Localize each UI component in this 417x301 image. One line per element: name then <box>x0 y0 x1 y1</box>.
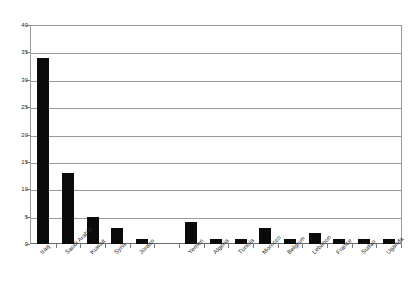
y-tick-label: 25 <box>2 104 28 110</box>
y-tick-label: 5 <box>2 214 28 220</box>
y-tick-label: 40 <box>2 22 28 28</box>
x-tick-mark <box>352 244 353 248</box>
x-tick-mark <box>154 244 155 248</box>
x-tick-mark <box>278 244 279 248</box>
x-tick-mark <box>130 244 131 248</box>
y-tick-mark <box>26 244 30 245</box>
bar-chart: 0510152025303540 IraqSaudi ArabiaKuwaitS… <box>0 0 417 301</box>
x-tick-mark <box>376 244 377 248</box>
x-tick-mark <box>56 244 57 248</box>
bar <box>37 58 49 244</box>
x-axis-labels: IraqSaudi ArabiaKuwaitSyriaJordanYemenAl… <box>31 249 411 301</box>
y-tick-label: 20 <box>2 132 28 138</box>
bar <box>185 222 197 244</box>
x-tick-mark <box>401 244 402 248</box>
y-tick-label: 0 <box>2 241 28 247</box>
y-tick-label: 30 <box>2 77 28 83</box>
y-axis: 0510152025303540 <box>0 25 28 244</box>
y-tick-label: 10 <box>2 186 28 192</box>
x-tick-mark <box>228 244 229 248</box>
x-tick-mark <box>179 244 180 248</box>
x-tick-mark <box>80 244 81 248</box>
x-tick-mark <box>105 244 106 248</box>
y-tick-label: 15 <box>2 159 28 165</box>
x-tick-mark <box>253 244 254 248</box>
y-tick-label: 35 <box>2 49 28 55</box>
x-tick-mark <box>302 244 303 248</box>
bar <box>62 173 74 244</box>
x-tick-mark <box>204 244 205 248</box>
x-tick-mark <box>327 244 328 248</box>
bars-layer <box>31 25 401 244</box>
